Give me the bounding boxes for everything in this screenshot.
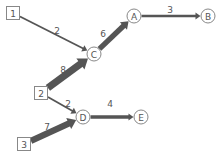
edge-line (31, 123, 70, 141)
edge-weight-label: 2 (65, 99, 71, 109)
edge-weight-label: 7 (44, 122, 50, 132)
node-2: 2 (35, 87, 48, 100)
edge-weight-label: 8 (60, 65, 66, 75)
node-E: E (134, 110, 148, 124)
flow-diagram: 123ABCDE 2638247 (0, 0, 220, 158)
node-label: D (80, 113, 87, 123)
arrowhead-icon (129, 114, 134, 121)
node-label: A (131, 12, 138, 22)
edge-line (20, 17, 84, 49)
node-label: E (138, 113, 144, 123)
node-label: 2 (38, 89, 44, 99)
edge-D-E (91, 114, 134, 121)
node-label: C (91, 50, 97, 60)
node-C: C (87, 47, 101, 61)
edge-weight-label: 2 (54, 26, 60, 36)
edge-weight-label: 6 (100, 29, 106, 39)
nodes-layer: 123ABCDE (7, 7, 216, 151)
edge-2-D (48, 97, 77, 114)
node-label: 1 (10, 9, 16, 19)
node-label: B (205, 12, 211, 22)
node-D: D (76, 110, 90, 124)
edge-2-C (48, 58, 88, 87)
node-1: 1 (7, 7, 20, 20)
node-B: B (201, 9, 215, 23)
node-A: A (127, 9, 141, 23)
edge-weight-label: 4 (107, 99, 113, 109)
node-3: 3 (18, 138, 31, 151)
edge-labels-layer: 2638247 (44, 5, 173, 132)
edge-weight-label: 3 (167, 5, 173, 15)
node-label: 3 (21, 140, 27, 150)
arrowhead-icon (196, 13, 201, 20)
edge-3-D (31, 118, 76, 141)
